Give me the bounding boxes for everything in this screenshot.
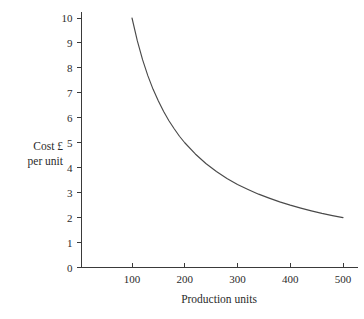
y-tick-label: 6: [67, 112, 73, 124]
x-tick-label: 500: [335, 273, 352, 285]
y-tick-label: 10: [62, 12, 74, 24]
x-axis-title: Production units: [181, 293, 257, 305]
y-tick-label: 9: [67, 37, 73, 49]
y-tick-label: 4: [67, 162, 73, 174]
y-tick-label: 3: [67, 187, 73, 199]
y-axis-title-line1: Cost £: [33, 140, 63, 152]
x-tick-label: 300: [229, 273, 246, 285]
chart-figure: 012345678910 100200300400500 Cost £ per …: [0, 0, 364, 319]
y-tick-label: 8: [67, 62, 73, 74]
y-tick-label: 0: [67, 262, 73, 274]
x-tick-label: 400: [282, 273, 299, 285]
y-axis-title-line2: per unit: [28, 155, 64, 168]
y-tick-label: 7: [67, 87, 73, 99]
x-tick-label: 100: [124, 273, 141, 285]
y-tick-label: 2: [67, 212, 73, 224]
x-tick-label: 200: [177, 273, 194, 285]
y-tick-label: 1: [67, 237, 73, 249]
y-tick-label: 5: [67, 137, 73, 149]
cost-per-unit-line-chart: 012345678910 100200300400500 Cost £ per …: [0, 0, 364, 319]
